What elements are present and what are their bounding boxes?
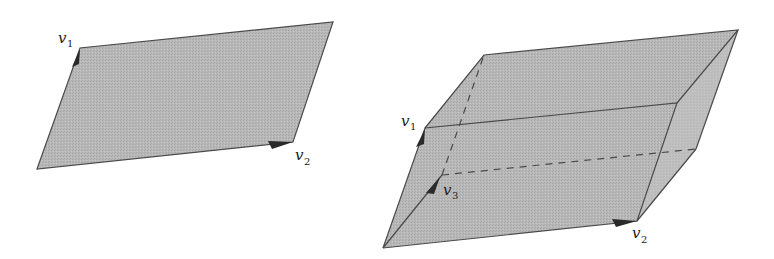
svg-text:1: 1	[67, 38, 73, 49]
svg-text:v: v	[401, 112, 410, 130]
svg-text:2: 2	[304, 156, 310, 167]
svg-text:v: v	[632, 224, 641, 242]
svg-text:v: v	[58, 29, 67, 47]
svg-text:2: 2	[641, 234, 647, 245]
v1-label: v 1	[58, 29, 73, 49]
parallelogram-face	[37, 22, 333, 169]
svg-text:1: 1	[410, 121, 416, 132]
v2-label: v 2	[295, 146, 310, 167]
parallelepiped-figure: v 1 v 2 v 3	[383, 30, 738, 248]
v2-label: v 2	[632, 224, 647, 245]
v2-arrowhead-icon	[268, 141, 293, 149]
svg-text:3: 3	[452, 190, 458, 201]
svg-text:v: v	[443, 181, 452, 199]
v1-label: v 1	[401, 112, 416, 132]
parallelogram-figure: v 1 v 2	[37, 22, 333, 169]
svg-text:v: v	[295, 146, 304, 164]
diagram-canvas: v 1 v 2 v 1	[0, 0, 774, 259]
